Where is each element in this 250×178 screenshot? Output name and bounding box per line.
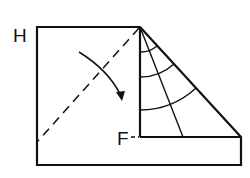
label-h: H bbox=[13, 25, 27, 46]
label-f: F bbox=[117, 128, 129, 149]
fold-line-dashed bbox=[38, 28, 139, 141]
fold-diagram: H F bbox=[0, 0, 250, 178]
folded-flap bbox=[140, 27, 241, 137]
fold-arrow-head bbox=[116, 91, 125, 101]
diagram-svg: H F bbox=[0, 0, 250, 178]
inner-ray bbox=[140, 27, 183, 137]
